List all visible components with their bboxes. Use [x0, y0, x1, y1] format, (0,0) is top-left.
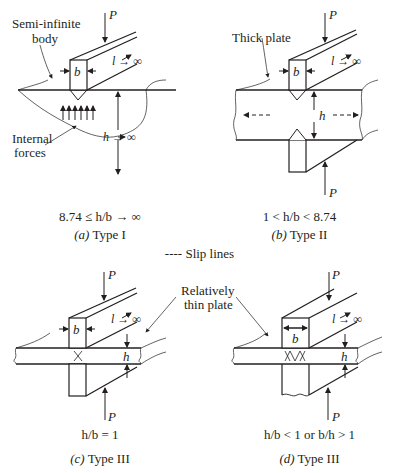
callout-internal-forces-line1: Internal	[12, 132, 52, 146]
height-h-label: h	[341, 350, 348, 364]
caption-c-text: Type III	[88, 451, 130, 466]
length-l-label: l → ∞	[111, 312, 141, 326]
caption-c-letter: (c)	[70, 451, 84, 466]
caption-d-letter: (d)	[279, 451, 294, 466]
width-b-label: b	[73, 323, 80, 337]
caption-d: (d) Type III	[220, 451, 399, 467]
callout-thin-plate-line2: thin plate	[184, 298, 233, 312]
caption-b: (b) Type II	[200, 227, 399, 243]
length-l-label: l → ∞	[332, 312, 362, 326]
length-l-label: l → ∞	[112, 54, 142, 68]
load-p-bottom-label: P	[329, 186, 337, 200]
width-b-label: b	[292, 332, 299, 346]
height-h-label: h	[123, 350, 130, 364]
condition-b: 1 < h/b < 8.74	[200, 209, 399, 225]
callout-thin-plate-line1: Relatively	[181, 284, 234, 298]
caption-a-letter: (a)	[74, 227, 89, 242]
callout-semi-infinite-line1: Semi-infinite	[12, 17, 81, 31]
legend-slip-lines: ---- Slip lines	[0, 246, 399, 262]
load-p-bottom-label: P	[108, 410, 116, 424]
legend-dash-symbol: ----	[165, 246, 182, 261]
condition-a: 8.74 ≤ h/b → ∞	[0, 209, 200, 225]
condition-c: h/b = 1	[20, 427, 180, 443]
callout-internal-forces-line2: forces	[14, 146, 46, 160]
legend-label: Slip lines	[185, 246, 234, 261]
load-p-bottom-label: P	[332, 410, 340, 424]
caption-d-text: Type III	[298, 451, 340, 466]
callout-semi-infinite-line2: body	[32, 32, 58, 46]
width-b-label: b	[74, 65, 81, 79]
caption-a-text: Type I	[92, 227, 125, 242]
panel-d-drawing	[232, 272, 382, 420]
caption-a: (a) Type I	[0, 227, 200, 243]
caption-b-letter: (b)	[272, 227, 287, 242]
load-p-top-label: P	[329, 8, 337, 22]
caption-b-text: Type II	[290, 227, 328, 242]
load-p-top-label: P	[332, 268, 340, 282]
load-p-top-label: P	[108, 268, 116, 282]
panel-c-drawing	[14, 272, 176, 420]
width-b-label: b	[293, 65, 300, 79]
load-p-label: P	[109, 8, 117, 22]
callout-thick-plate: Thick plate	[232, 31, 291, 45]
height-h-label: h → ∞	[103, 130, 136, 144]
length-l-label: l → ∞	[331, 54, 361, 68]
caption-c: (c) Type III	[20, 451, 180, 467]
height-h-label: h	[319, 109, 326, 123]
condition-d: h/b < 1 or b/h > 1	[220, 427, 399, 443]
